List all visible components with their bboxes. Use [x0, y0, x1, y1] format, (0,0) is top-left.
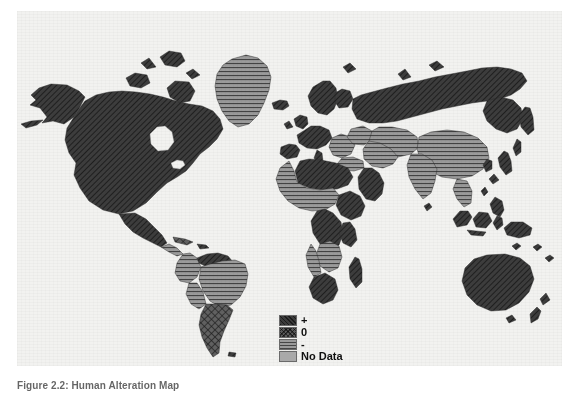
legend-item-no-data: No Data	[279, 350, 343, 362]
map-panel: + 0 - No Data	[17, 11, 562, 366]
region-pacific-islet-b	[545, 255, 554, 262]
legend-label-no-data: No Data	[301, 351, 343, 362]
region-sumatra	[453, 211, 472, 227]
region-mexico	[119, 213, 167, 247]
region-brazil	[199, 260, 248, 307]
figure-caption: Figure 2.2: Human Alteration Map	[17, 380, 417, 394]
region-svalbard	[343, 63, 356, 73]
region-philippines	[490, 197, 504, 217]
region-aleutians	[21, 120, 43, 128]
region-canada-usa	[65, 91, 223, 214]
legend-label-zero: 0	[301, 327, 307, 338]
region-taiwan	[481, 187, 488, 196]
world-map-svg	[17, 11, 562, 366]
legend-swatch-plus	[279, 315, 297, 326]
region-pacific-islet-c	[512, 243, 521, 250]
legend-item-zero: 0	[279, 326, 343, 338]
region-iceland	[272, 100, 289, 110]
legend-label-plus: +	[301, 315, 307, 326]
region-ellesmere-island	[160, 51, 185, 67]
region-sri-lanka	[424, 203, 432, 211]
region-hispaniola	[197, 244, 209, 249]
legend-label-minus: -	[301, 339, 305, 350]
region-arctic-islet-a	[141, 58, 156, 69]
legend-swatch-minus	[279, 339, 297, 350]
region-india	[407, 154, 437, 199]
region-papua-new-guinea	[504, 222, 532, 238]
region-new-zealand-north	[540, 293, 550, 305]
region-sudan-ethiopia	[336, 191, 365, 220]
region-arctic-islet-b	[186, 69, 200, 79]
region-iberia	[280, 144, 300, 159]
legend-item-plus: +	[279, 314, 343, 326]
region-sulawesi	[493, 216, 503, 230]
region-western-europe	[297, 126, 332, 149]
region-sakhalin	[513, 139, 521, 156]
region-borneo	[473, 212, 492, 228]
region-indochina	[453, 179, 472, 207]
region-java	[467, 230, 486, 236]
region-argentina-chile	[199, 304, 233, 357]
region-arctic-isle-c	[429, 61, 444, 71]
region-british-isles	[294, 115, 308, 129]
legend-swatch-no-data	[279, 351, 297, 362]
region-siberia-east	[483, 97, 523, 133]
region-pacific-islet-a	[533, 244, 542, 251]
region-ireland	[284, 121, 293, 129]
region-scandinavia	[308, 81, 338, 115]
region-australia	[462, 254, 534, 311]
region-victoria-island	[126, 73, 150, 88]
region-arabia	[358, 168, 384, 201]
legend-item-minus: -	[279, 338, 343, 350]
region-falklands	[228, 352, 236, 357]
region-tasmania	[506, 315, 516, 323]
region-japan-south	[489, 174, 499, 184]
region-cuba	[173, 237, 193, 245]
region-east-africa	[339, 222, 357, 247]
region-new-zealand-south	[530, 307, 541, 323]
region-finland-karelia	[335, 89, 353, 108]
region-colombia-ecuador	[175, 253, 201, 283]
figure-container: + 0 - No Data Figure 2.2: Human Alterati…	[0, 0, 578, 396]
region-japan	[498, 151, 512, 175]
legend-swatch-zero	[279, 327, 297, 338]
region-novaya-zemlya	[398, 69, 411, 80]
region-central-america	[161, 244, 183, 256]
region-greenland	[215, 55, 271, 127]
map-legend: + 0 - No Data	[279, 314, 343, 362]
region-south-africa	[309, 273, 338, 304]
region-madagascar	[349, 257, 362, 288]
